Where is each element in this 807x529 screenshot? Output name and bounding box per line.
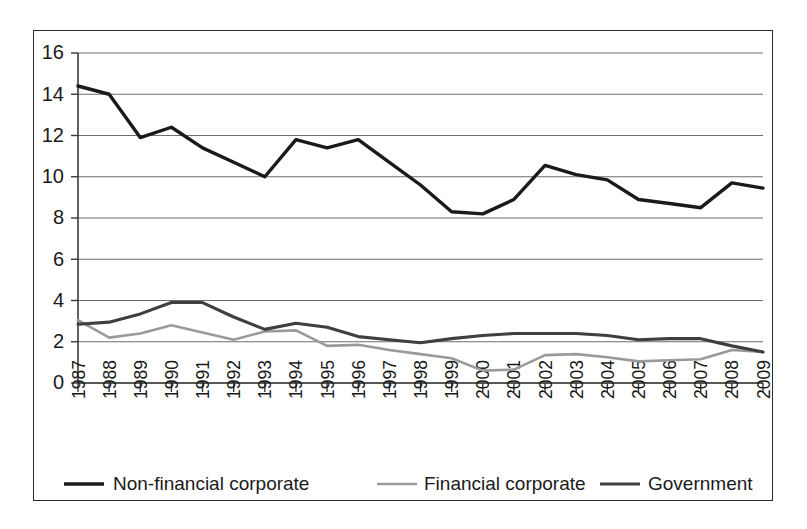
x-tick-label: 2009 bbox=[754, 360, 774, 399]
x-tick-label: 1996 bbox=[349, 360, 369, 399]
x-tick-label: 2002 bbox=[536, 360, 556, 399]
y-tick-label: 14 bbox=[42, 83, 64, 105]
x-tick-label: 1987 bbox=[69, 360, 89, 399]
x-tick-label: 2008 bbox=[722, 360, 742, 399]
series-line-0 bbox=[78, 86, 763, 214]
y-tick-label: 8 bbox=[53, 206, 64, 228]
legend-label-0: Non-financial corporate bbox=[113, 473, 309, 494]
legend-label-1: Financial corporate bbox=[424, 473, 586, 494]
x-tick-label: 2004 bbox=[598, 360, 618, 399]
x-tick-label: 1992 bbox=[224, 360, 244, 399]
y-tick-label: 6 bbox=[53, 248, 64, 270]
x-tick-label: 1998 bbox=[411, 360, 431, 399]
x-tick-label: 1988 bbox=[100, 360, 120, 399]
y-tick-label: 2 bbox=[53, 330, 64, 352]
y-tick-label: 16 bbox=[42, 41, 64, 63]
x-tick-label: 2006 bbox=[660, 360, 680, 399]
y-tick-label: 12 bbox=[42, 124, 64, 146]
y-tick-labels: 0246810121416 bbox=[42, 41, 64, 393]
y-axis bbox=[71, 53, 78, 383]
chart-plot: 0246810121416 19871988198919901991199219… bbox=[0, 0, 807, 529]
x-tick-label: 2007 bbox=[691, 360, 711, 399]
legend-label-2: Government bbox=[648, 473, 753, 494]
x-tick-labels: 1987198819891990199119921993199419951996… bbox=[69, 360, 774, 399]
x-tick-label: 2005 bbox=[629, 360, 649, 399]
x-tick-label: 1997 bbox=[380, 360, 400, 399]
x-tick-label: 2003 bbox=[567, 360, 587, 399]
y-tick-label: 0 bbox=[53, 371, 64, 393]
x-tick-label: 1989 bbox=[131, 360, 151, 399]
x-tick-label: 2000 bbox=[473, 360, 493, 399]
data-series bbox=[78, 86, 763, 371]
x-tick-label: 1994 bbox=[286, 360, 306, 399]
gridlines bbox=[78, 53, 763, 383]
chart-figure: 0246810121416 19871988198919901991199219… bbox=[0, 0, 807, 529]
x-tick-label: 1993 bbox=[255, 360, 275, 399]
x-tick-label: 1999 bbox=[442, 360, 462, 399]
y-tick-label: 4 bbox=[53, 289, 64, 311]
x-tick-label: 1991 bbox=[193, 360, 213, 399]
x-tick-label: 1990 bbox=[162, 360, 182, 399]
chart-legend: Non-financial corporateFinancial corpora… bbox=[64, 473, 753, 494]
y-tick-label: 10 bbox=[42, 165, 64, 187]
x-tick-label: 1995 bbox=[318, 360, 338, 399]
